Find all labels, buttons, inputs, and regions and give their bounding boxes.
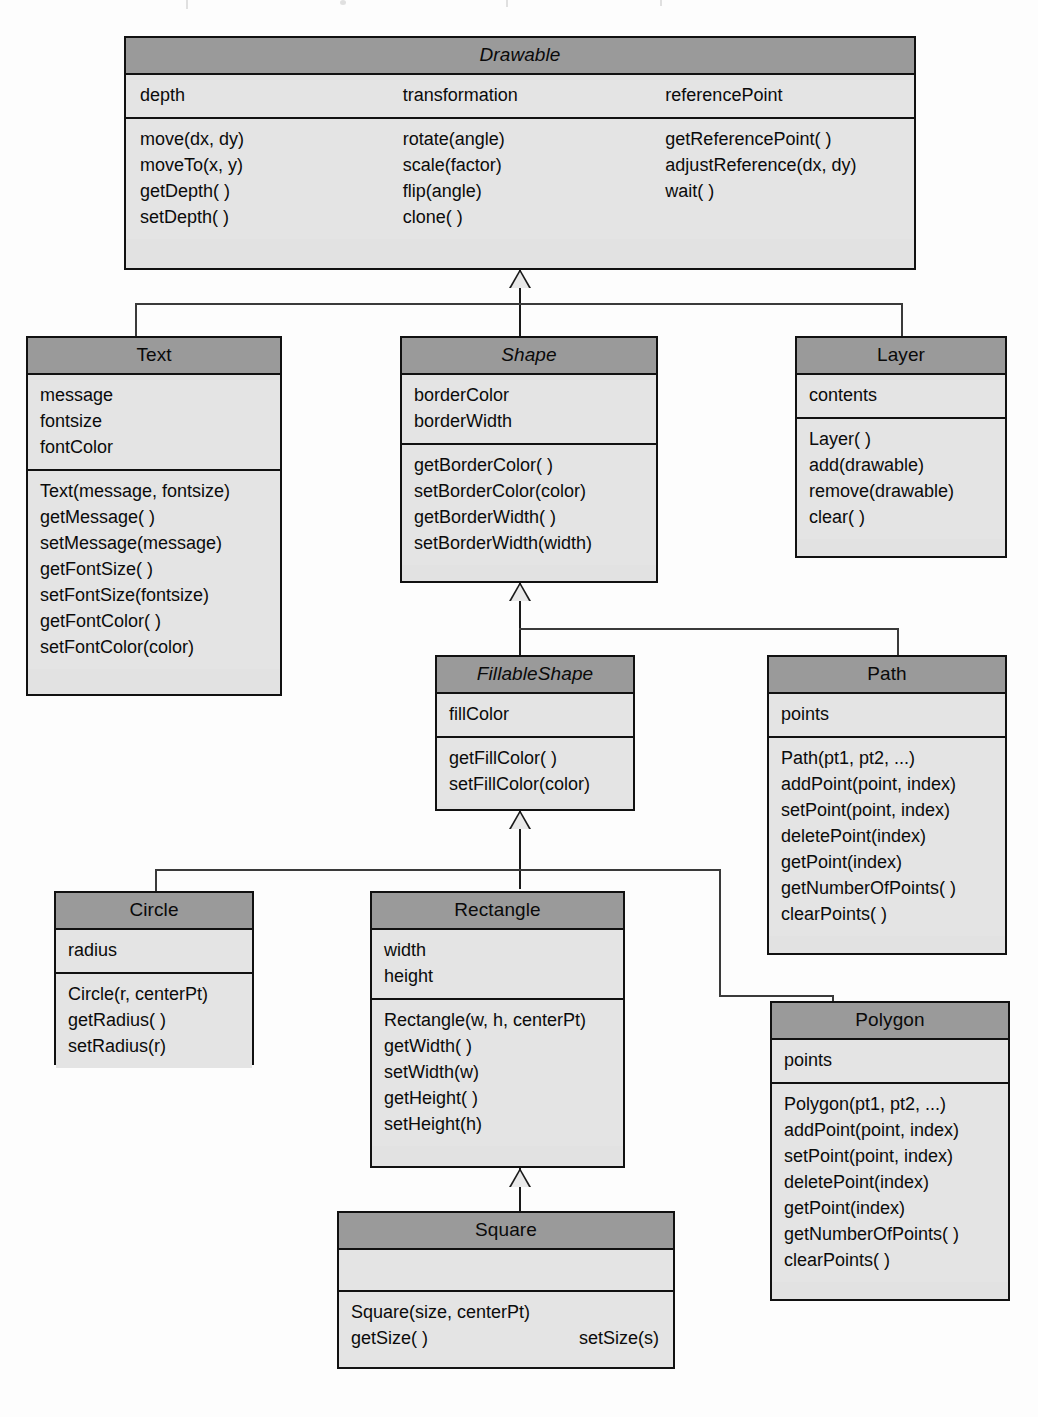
attribute: fontsize	[28, 408, 280, 434]
methods-compartment-square: Square(size, centerPt) getSize( ) setSiz…	[339, 1292, 673, 1360]
class-box-square[interactable]: Square Square(size, centerPt) getSize( )…	[337, 1211, 675, 1369]
method: setWidth(w)	[372, 1059, 623, 1085]
attributes-compartment-drawable: depth transformation referencePoint	[126, 75, 914, 119]
attributes-compartment-text: message fontsize fontColor	[28, 375, 280, 471]
method: getPoint(index)	[772, 1195, 1008, 1221]
class-name-rectangle: Rectangle	[372, 893, 623, 930]
class-name-polygon: Polygon	[772, 1003, 1008, 1040]
method: setSize(s)	[579, 1325, 659, 1351]
method: setRadius(r)	[56, 1033, 252, 1059]
method: clearPoints( )	[772, 1247, 1008, 1273]
method: rotate(angle)	[389, 126, 652, 152]
attribute: borderColor	[402, 382, 656, 408]
method: Circle(r, centerPt)	[56, 981, 252, 1007]
class-box-text[interactable]: Text message fontsize fontColor Text(mes…	[26, 336, 282, 696]
class-box-path[interactable]: Path points Path(pt1, pt2, ...) addPoint…	[767, 655, 1007, 955]
generalization-branch-path	[897, 628, 899, 655]
method: remove(drawable)	[797, 478, 1005, 504]
methods-compartment-rectangle: Rectangle(w, h, centerPt) getWidth( ) se…	[372, 1000, 623, 1146]
methods-compartment-drawable: move(dx, dy) moveTo(x, y) getDepth( ) se…	[126, 119, 914, 239]
attributes-compartment-fillableshape: fillColor	[437, 694, 633, 738]
method: setDepth( )	[126, 204, 389, 230]
method: clearPoints( )	[769, 901, 1005, 927]
method: setFillColor(color)	[437, 771, 633, 797]
scan-artifact	[506, 0, 508, 7]
methods-compartment-polygon: Polygon(pt1, pt2, ...) addPoint(point, i…	[772, 1084, 1008, 1282]
method: clear( )	[797, 504, 1005, 530]
attributes-compartment-square	[339, 1250, 673, 1292]
scan-artifact	[186, 0, 188, 9]
method: getNumberOfPoints( )	[769, 875, 1005, 901]
attributes-compartment-circle: radius	[56, 930, 252, 974]
attribute: height	[372, 963, 623, 989]
class-name-drawable: Drawable	[126, 38, 914, 75]
method: move(dx, dy)	[126, 126, 389, 152]
method: Square(size, centerPt)	[339, 1299, 673, 1325]
class-box-layer[interactable]: Layer contents Layer( ) add(drawable) re…	[795, 336, 1007, 558]
method: setMessage(message)	[28, 530, 280, 556]
attribute: depth	[126, 82, 389, 108]
generalization-fillable-drop	[519, 829, 521, 889]
method: add(drawable)	[797, 452, 1005, 478]
method: setHeight(h)	[372, 1111, 623, 1137]
attribute: message	[28, 382, 280, 408]
method: setPoint(point, index)	[769, 797, 1005, 823]
attribute: contents	[797, 382, 1005, 408]
class-box-shape[interactable]: Shape borderColor borderWidth getBorderC…	[400, 336, 658, 583]
class-box-circle[interactable]: Circle radius Circle(r, centerPt) getRad…	[54, 891, 254, 1065]
method: getBorderColor( )	[402, 452, 656, 478]
class-name-square: Square	[339, 1213, 673, 1250]
method: getNumberOfPoints( )	[772, 1221, 1008, 1247]
class-name-path: Path	[769, 657, 1005, 694]
class-box-rectangle[interactable]: Rectangle width height Rectangle(w, h, c…	[370, 891, 625, 1168]
method: wait( )	[651, 178, 914, 204]
generalization-fillable-bus	[155, 869, 721, 871]
methods-compartment-path: Path(pt1, pt2, ...) addPoint(point, inde…	[769, 738, 1005, 936]
class-name-layer: Layer	[797, 338, 1005, 375]
attribute: width	[372, 937, 623, 963]
method: getMessage( )	[28, 504, 280, 530]
methods-compartment-fillableshape: getFillColor( ) setFillColor(color)	[437, 738, 633, 806]
generalization-branch-circle	[155, 869, 157, 891]
attributes-compartment-polygon: points	[772, 1040, 1008, 1084]
generalization-branch-text	[135, 303, 137, 336]
method: setBorderWidth(width)	[402, 530, 656, 556]
methods-compartment-shape: getBorderColor( ) setBorderColor(color) …	[402, 445, 656, 565]
generalization-branch-polygon-across	[719, 995, 834, 997]
generalization-branch-layer	[901, 303, 903, 336]
generalization-drawable-bus	[135, 303, 903, 305]
method: Path(pt1, pt2, ...)	[769, 745, 1005, 771]
attribute: points	[769, 701, 1005, 727]
method: getReferencePoint( )	[651, 126, 914, 152]
method: getFontColor( )	[28, 608, 280, 634]
attributes-compartment-rectangle: width height	[372, 930, 623, 1000]
method: setBorderColor(color)	[402, 478, 656, 504]
attributes-compartment-shape: borderColor borderWidth	[402, 375, 656, 445]
class-name-fillableshape: FillableShape	[437, 657, 633, 694]
method: setFontSize(fontsize)	[28, 582, 280, 608]
method: Layer( )	[797, 426, 1005, 452]
method: addPoint(point, index)	[769, 771, 1005, 797]
method: getPoint(index)	[769, 849, 1005, 875]
method: getWidth( )	[372, 1033, 623, 1059]
method: adjustReference(dx, dy)	[651, 152, 914, 178]
generalization-drawable-drop	[519, 288, 521, 336]
scan-artifact	[340, 0, 346, 5]
attribute: transformation	[389, 82, 652, 108]
attribute: points	[772, 1047, 1008, 1073]
class-box-drawable[interactable]: Drawable depth transformation referenceP…	[124, 36, 916, 270]
methods-compartment-circle: Circle(r, centerPt) getRadius( ) setRadi…	[56, 974, 252, 1068]
method: scale(factor)	[389, 152, 652, 178]
method: setFontColor(color)	[28, 634, 280, 660]
method: Rectangle(w, h, centerPt)	[372, 1007, 623, 1033]
class-name-circle: Circle	[56, 893, 252, 930]
class-box-polygon[interactable]: Polygon points Polygon(pt1, pt2, ...) ad…	[770, 1001, 1010, 1301]
attributes-compartment-layer: contents	[797, 375, 1005, 419]
method: addPoint(point, index)	[772, 1117, 1008, 1143]
class-name-text: Text	[28, 338, 280, 375]
class-box-fillableshape[interactable]: FillableShape fillColor getFillColor( ) …	[435, 655, 635, 811]
methods-compartment-layer: Layer( ) add(drawable) remove(drawable) …	[797, 419, 1005, 539]
method: moveTo(x, y)	[126, 152, 389, 178]
method: setPoint(point, index)	[772, 1143, 1008, 1169]
generalization-shape-bus	[519, 628, 899, 630]
